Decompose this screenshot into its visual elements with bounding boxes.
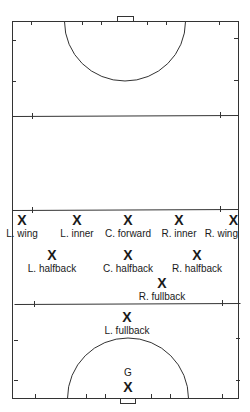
player-label: C. halfback [103, 263, 153, 275]
player-label: L. wing [6, 228, 38, 240]
player-marker: X [103, 248, 153, 262]
player-marker: X [123, 380, 132, 394]
top-25-yard-line [13, 116, 239, 117]
player-label: R. inner [161, 228, 196, 240]
player-label: L. halfback [28, 263, 76, 275]
player-goalkeeper: G X [123, 367, 132, 394]
player-l-wing: X L. wing [6, 213, 38, 240]
player-c-forward: X C. forward [105, 213, 151, 240]
player-label: G [123, 367, 132, 379]
player-marker: X [6, 213, 38, 227]
top-striking-circle [65, 22, 186, 81]
player-r-wing: X R. wing [221, 213, 238, 240]
player-marker: X [172, 248, 222, 262]
center-line [13, 210, 239, 211]
player-r-inner: X R. inner [161, 213, 196, 240]
player-marker: X [139, 276, 186, 290]
player-label: L. inner [60, 228, 93, 240]
bottom-25-yard-line [15, 304, 241, 305]
player-l-halfback: X L. halfback [28, 248, 76, 275]
player-c-halfback: X C. halfback [103, 248, 153, 275]
player-marker: X [28, 248, 76, 262]
hockey-field [0, 0, 250, 412]
top-goal [118, 17, 134, 22]
player-l-inner: X L. inner [60, 213, 93, 240]
bottom-goal [121, 399, 136, 404]
player-label: R. halfback [172, 263, 222, 275]
player-marker: X [161, 213, 196, 227]
player-l-fullback: X L. fullback [104, 310, 149, 337]
player-r-halfback: X R. halfback [172, 248, 222, 275]
player-r-fullback: X R. fullback [139, 276, 186, 303]
player-marker: X [104, 310, 149, 324]
player-label: L. fullback [104, 325, 149, 337]
player-marker: X [221, 213, 238, 227]
player-label: C. forward [105, 228, 151, 240]
player-marker: X [105, 213, 151, 227]
player-label: R. fullback [139, 291, 186, 303]
player-marker: X [60, 213, 93, 227]
player-label: R. wing [221, 228, 238, 240]
